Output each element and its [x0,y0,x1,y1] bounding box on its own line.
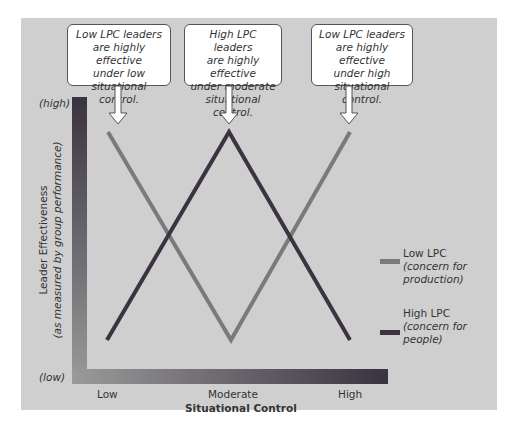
legend-desc: (concern for [403,320,467,333]
legend-label: High LPC [403,307,467,320]
legend-desc: production) [403,273,467,286]
x-tick-high: High [338,388,362,400]
y-axis-title: Leader Effectiveness (as measured by gro… [36,141,64,338]
x-axis-title: Situational Control [185,402,297,414]
x-tick-low: Low [97,388,118,400]
legend-swatch-low-lpc [380,259,400,264]
arrow-icon [109,86,127,124]
y-axis-title-text: Leader Effectiveness [36,141,50,338]
series-high-lpc-line [107,132,350,340]
legend-item-low-lpc: Low LPC (concern for production) [403,247,467,286]
legend-desc: people) [403,333,467,346]
y-low-label: (low) [39,371,65,383]
series-low-lpc-line [108,132,350,340]
plot-area [0,0,515,442]
legend-swatch-high-lpc [380,330,400,335]
arrow-icon [220,86,238,124]
legend-item-high-lpc: High LPC (concern for people) [403,307,467,346]
legend-desc: (concern for [403,260,467,273]
y-axis-subtitle: (as measured by group performance) [50,141,64,338]
legend-label: Low LPC [403,247,467,260]
arrow-icon [340,86,358,124]
y-high-label: (high) [39,97,70,109]
x-tick-moderate: Moderate [208,388,258,400]
